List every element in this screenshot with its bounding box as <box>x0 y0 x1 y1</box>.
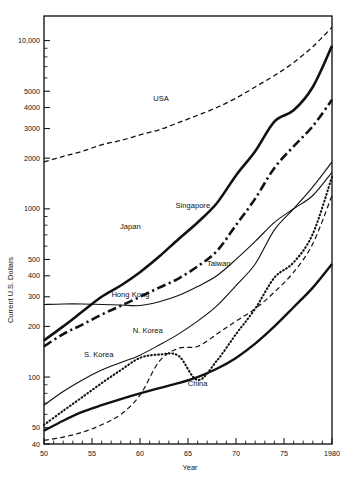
series-line-japan <box>44 46 332 341</box>
series-line-hong-kong <box>44 172 332 306</box>
series-label-s-korea: S. Korea <box>84 350 114 359</box>
series-label-usa: USA <box>153 94 170 103</box>
x-tick-label: 75 <box>280 449 288 458</box>
x-tick-label: 70 <box>232 449 240 458</box>
series-labels-group: USAJapanSingaporeTaiwanHong KongS. Korea… <box>84 94 231 388</box>
series-label-n-korea: N. Korea <box>133 326 164 335</box>
x-tick-label: 1980 <box>324 449 340 458</box>
y-axis-ticks: 4050100200300400500100020003000400050001… <box>18 36 50 448</box>
y-tick-label: 3000 <box>24 124 40 133</box>
series-label-japan: Japan <box>120 222 141 231</box>
series-line-usa <box>44 27 332 162</box>
chart-canvas: 4050100200300400500100020003000400050001… <box>0 0 362 479</box>
x-tick-label: 55 <box>88 449 96 458</box>
y-tick-label: 400 <box>28 271 40 280</box>
y-tick-label: 4000 <box>24 103 40 112</box>
x-tick-label: 60 <box>136 449 144 458</box>
y-tick-label: 300 <box>28 292 40 301</box>
y-tick-label: 40 <box>32 440 40 449</box>
x-axis-ticks: 5055606570751980 <box>40 438 340 458</box>
y-tick-label: 1000 <box>24 204 40 213</box>
y-tick-label: 5000 <box>24 87 40 96</box>
x-axis-title: Year <box>183 463 198 472</box>
series-label-hong-kong: Hong Kong <box>111 290 149 299</box>
x-tick-label: 65 <box>184 449 192 458</box>
y-axis-title: Current U.S. Dollars <box>6 257 15 323</box>
y-tick-label: 100 <box>28 373 40 382</box>
y-tick-label: 200 <box>28 322 40 331</box>
y-tick-label: 2000 <box>24 154 40 163</box>
series-label-taiwan: Taiwan <box>207 259 231 268</box>
y-tick-label: 50 <box>32 423 40 432</box>
line-chart: 4050100200300400500100020003000400050001… <box>0 0 362 479</box>
series-label-china: China <box>188 379 209 388</box>
y-tick-label: 500 <box>28 255 40 264</box>
y-tick-label: 10,000 <box>18 36 40 45</box>
series-label-singapore: Singapore <box>175 201 210 210</box>
x-tick-label: 50 <box>40 449 48 458</box>
